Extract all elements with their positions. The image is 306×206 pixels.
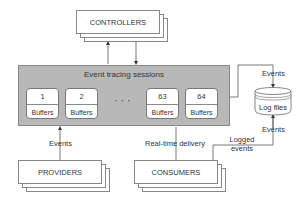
edge-label-real-time-delivery: Real-time delivery [145,139,205,148]
edge-label-logfiles-events: Events [262,125,285,134]
edge-label-providers-to-session: Events [49,139,72,148]
logged-events-line2: events [228,144,256,153]
providers-box[interactable]: PROVIDERS [18,160,102,184]
consumers-label: CONSUMERS [135,161,217,183]
logged-events-line1: Logged [228,135,256,144]
providers-label: PROVIDERS [19,161,101,183]
edge-label-logged-events: Logged events [228,135,256,153]
consumers-box[interactable]: CONSUMERS [134,160,218,184]
log-files-label: Log files [255,103,291,112]
